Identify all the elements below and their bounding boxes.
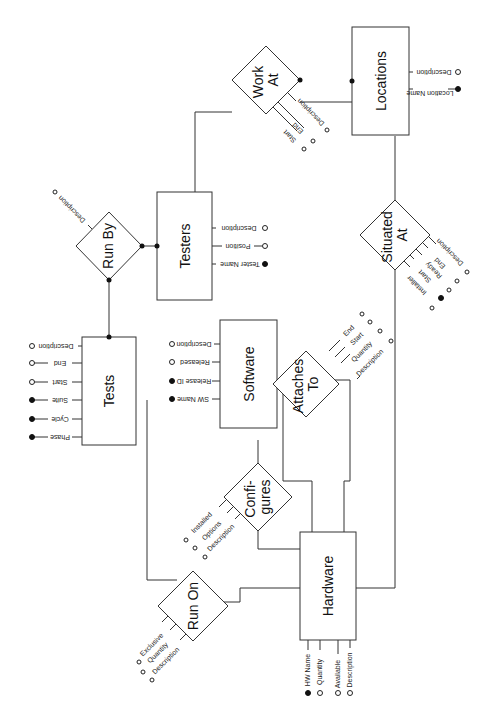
attribute-position: Position bbox=[225, 243, 250, 250]
relationship-label: Run On bbox=[185, 582, 201, 630]
key-attribute-icon bbox=[30, 417, 35, 422]
configures-attributes: Installed Options Description bbox=[184, 500, 240, 559]
key-attribute-icon bbox=[30, 398, 35, 403]
attribute-icon bbox=[30, 380, 35, 385]
relationship-label: Run By bbox=[100, 223, 116, 269]
entity-label: Software bbox=[241, 346, 257, 401]
attribute-released: Released bbox=[180, 359, 210, 366]
relationship-situated-at[interactable]: Situated At Installer Start Ready End De… bbox=[360, 200, 469, 310]
tests-attributes: Phase Cycle Suite Start bbox=[30, 342, 83, 441]
key-attribute-icon bbox=[170, 379, 175, 384]
attribute-icon bbox=[30, 344, 35, 349]
er-diagram: Tests Phase Cycle Suite bbox=[0, 0, 486, 718]
relationship-run-on[interactable]: Run On Exclusive Quantity Description bbox=[137, 571, 228, 682]
attribute-icon bbox=[336, 691, 341, 696]
attribute-description: Description bbox=[416, 68, 451, 76]
entity-label: Locations bbox=[373, 51, 389, 111]
attribute-available: Available bbox=[334, 660, 341, 688]
attribute-description: Description bbox=[221, 224, 256, 232]
relationship-attaches-to[interactable]: Attaches To End Start Quantity Descripti… bbox=[273, 312, 393, 417]
attribute-end: End bbox=[54, 360, 67, 367]
attribute-icon bbox=[263, 244, 268, 249]
attribute-start: Start bbox=[53, 379, 68, 386]
relationship-run-by[interactable]: Run By Description bbox=[53, 190, 145, 283]
attribute-icon bbox=[170, 360, 175, 365]
attribute-quantity: Quantity bbox=[316, 658, 324, 685]
entity-label: Testers bbox=[177, 223, 193, 268]
key-attribute-icon bbox=[263, 262, 268, 267]
key-attribute-icon bbox=[456, 87, 461, 92]
attribute-description: Description bbox=[38, 342, 73, 350]
attribute-tester-name: Tester Name bbox=[220, 261, 260, 268]
entity-label: Hardware bbox=[320, 555, 336, 616]
relationship-label: Confi- gures bbox=[242, 476, 273, 517]
attribute-icon bbox=[30, 361, 35, 366]
attribute-description: Description bbox=[57, 194, 87, 224]
attribute-hw-name: HW Name bbox=[304, 654, 311, 686]
entity-locations[interactable]: Locations Location Name Description bbox=[350, 27, 461, 135]
attribute-icon bbox=[170, 342, 175, 347]
key-attribute-icon bbox=[306, 691, 311, 696]
attribute-icon bbox=[53, 190, 57, 194]
attribute-icon bbox=[318, 691, 323, 696]
testers-attributes: Tester Name Position Description bbox=[212, 224, 268, 268]
entity-hardware[interactable]: Hardware HW Name Quantity Available Desc… bbox=[300, 532, 356, 696]
relationship-configures[interactable]: Confi- gures Installed Options Descripti… bbox=[184, 463, 292, 559]
key-attribute-icon bbox=[170, 397, 175, 402]
attribute-location-name: Location Name bbox=[406, 90, 453, 97]
attribute-description: Description bbox=[176, 340, 211, 348]
attribute-release-id: Release ID bbox=[177, 378, 212, 385]
software-attributes: SW Name Release ID Released Description bbox=[170, 340, 221, 403]
entity-testers[interactable]: Testers Tester Name Position Description bbox=[155, 192, 268, 300]
attribute-description: Description bbox=[346, 652, 354, 687]
key-attribute-icon bbox=[30, 435, 35, 440]
attribute-phase: Phase bbox=[50, 434, 70, 441]
attribute-sw-name: SW Name bbox=[177, 396, 209, 403]
attribute-start: Start bbox=[349, 331, 364, 346]
attribute-icon bbox=[456, 70, 461, 75]
entity-software[interactable]: Software SW Name Release ID Released Des… bbox=[170, 320, 278, 428]
attribute-description: Description bbox=[296, 97, 326, 127]
attribute-end: End bbox=[291, 122, 305, 136]
attaches-to-attributes: End Start Quantity Description bbox=[329, 312, 393, 379]
attribute-icon bbox=[263, 226, 268, 231]
entity-tests[interactable]: Tests Phase Cycle Suite bbox=[30, 335, 137, 446]
locations-attributes: Location Name Description bbox=[406, 68, 460, 97]
hardware-attributes: HW Name Quantity Available Description bbox=[304, 640, 354, 696]
relationship-work-at[interactable]: Work At Start End Description bbox=[232, 46, 329, 151]
attribute-cycle: Cycle bbox=[51, 415, 69, 423]
attribute-icon bbox=[348, 691, 353, 696]
attribute-suite: Suite bbox=[52, 397, 68, 404]
entity-label: Tests bbox=[101, 375, 117, 408]
